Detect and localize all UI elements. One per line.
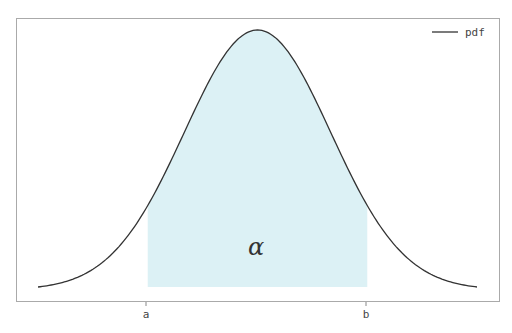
legend: pdf bbox=[432, 26, 485, 39]
tick-label-b: b bbox=[363, 308, 370, 321]
alpha-annotation: α bbox=[248, 233, 264, 261]
legend-label: pdf bbox=[465, 26, 485, 39]
pdf-chart: α a b pdf bbox=[0, 0, 512, 333]
tick-label-a: a bbox=[143, 308, 150, 321]
